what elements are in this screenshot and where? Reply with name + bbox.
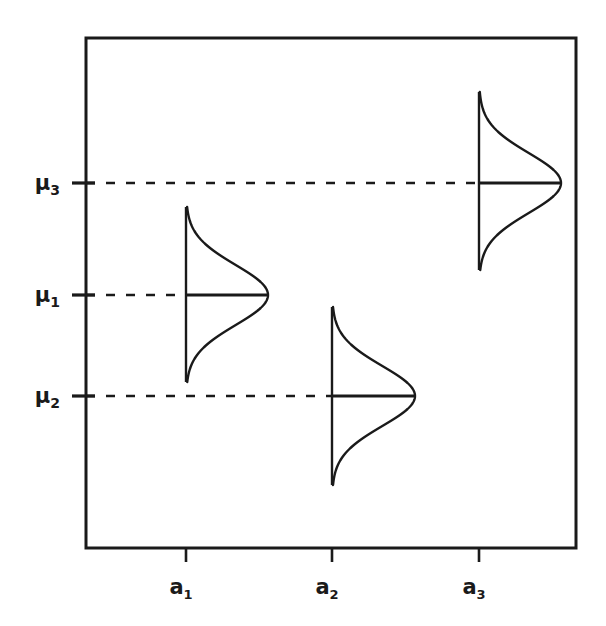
figure-background	[0, 0, 606, 626]
figure-container: μ3μ1μ2 a1a2a3	[0, 0, 606, 626]
distribution-figure: μ3μ1μ2 a1a2a3	[0, 0, 606, 626]
